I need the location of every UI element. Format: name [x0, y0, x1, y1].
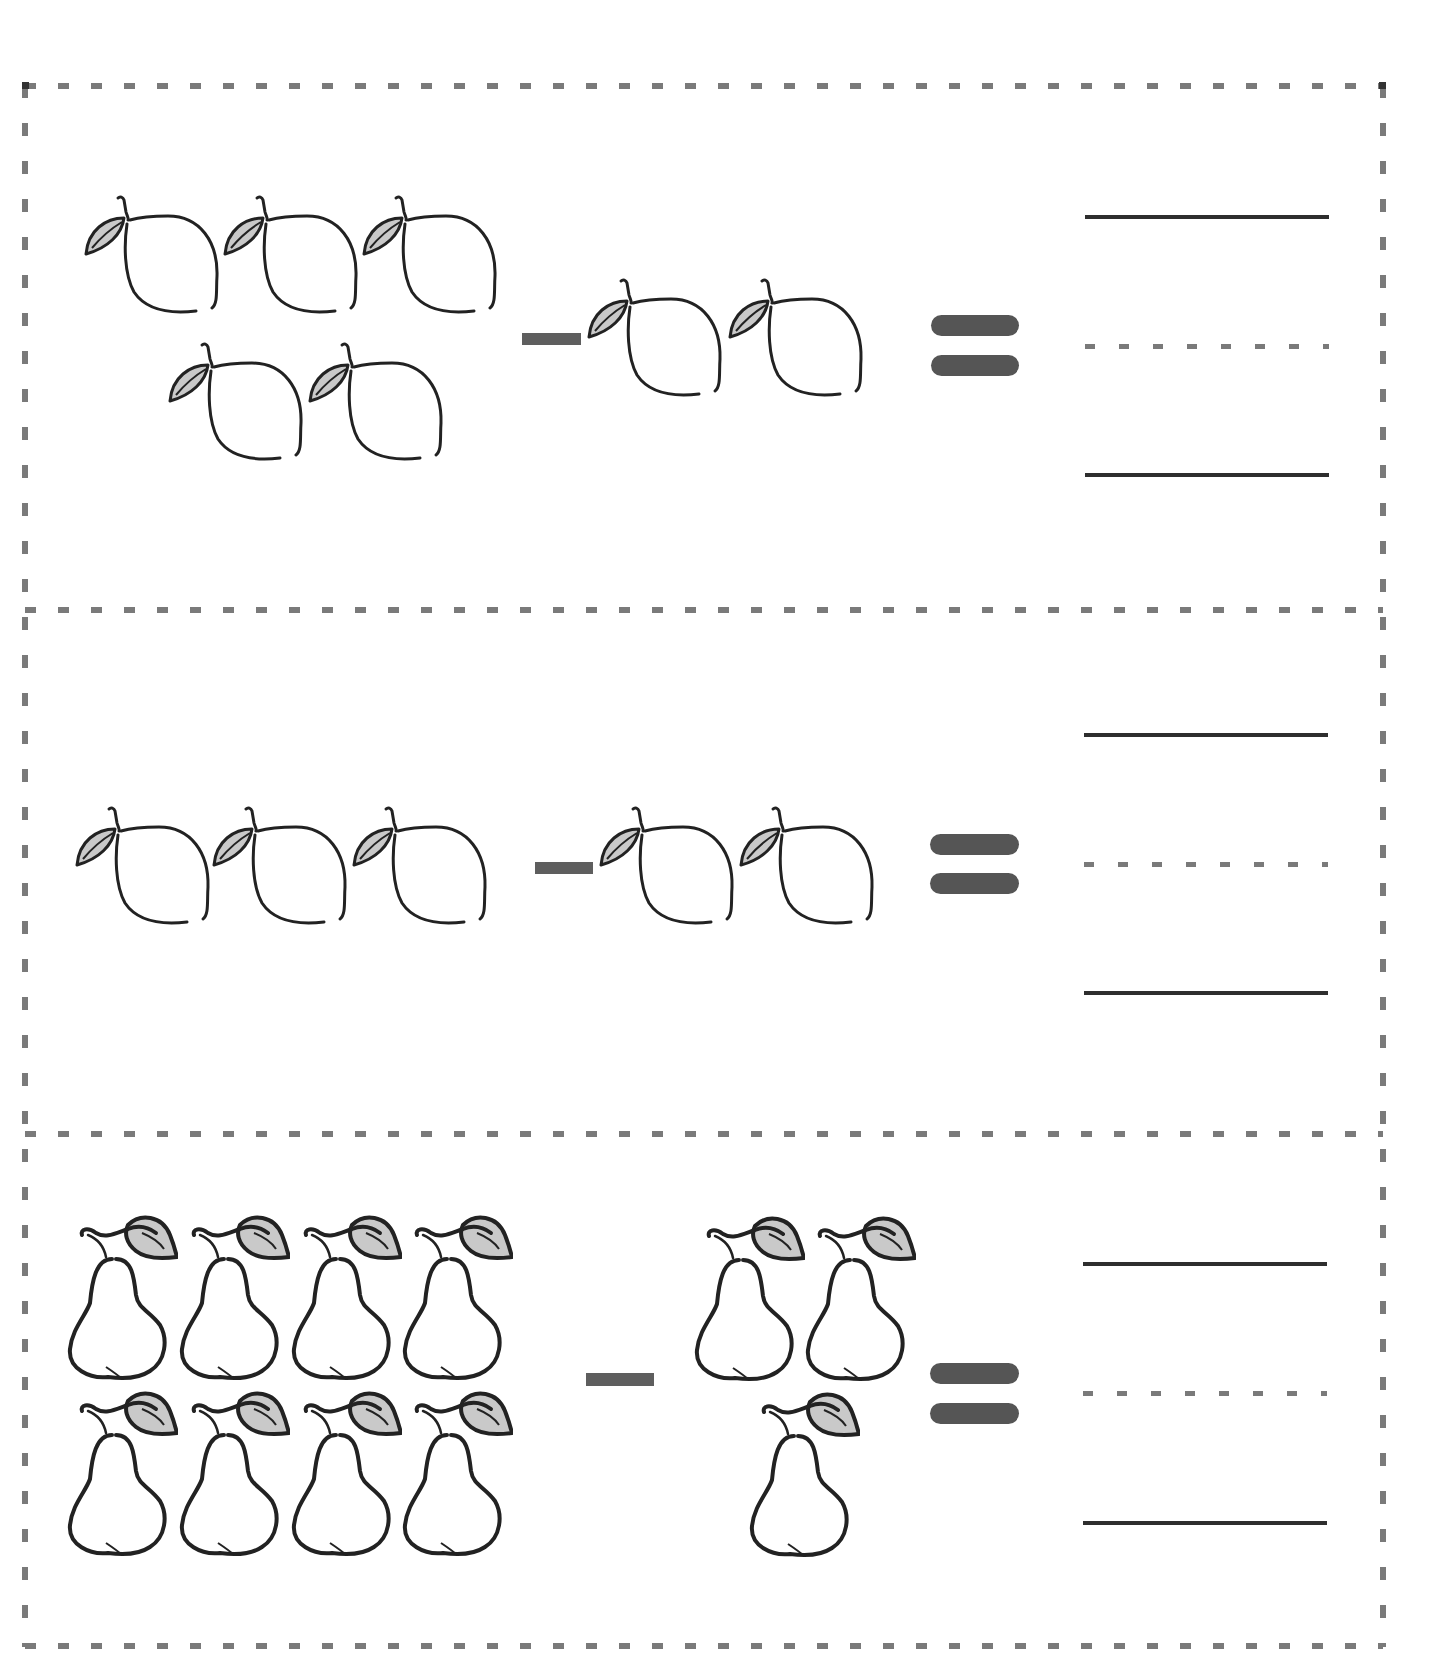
section-divider: [25, 1131, 1383, 1137]
minus-sign: [522, 333, 581, 345]
minus-sign: [586, 1373, 654, 1386]
lemon-icon: [587, 277, 723, 399]
equals-bar: [930, 1403, 1019, 1424]
pear-icon: [178, 1387, 290, 1557]
equals-bar: [931, 355, 1019, 376]
border-corner: [22, 82, 29, 89]
answer-line-middle: [1083, 1391, 1327, 1396]
answer-line-bottom: [1084, 991, 1328, 995]
worksheet: [0, 0, 1430, 1674]
lemon-icon: [739, 805, 875, 927]
lemon-icon: [362, 194, 498, 316]
answer-line-bottom: [1083, 1521, 1327, 1525]
pear-icon: [401, 1387, 513, 1557]
answer-line-top: [1084, 733, 1328, 737]
lemon-icon: [75, 805, 211, 927]
border-bottom: [25, 1643, 1383, 1649]
lemon-icon: [212, 805, 348, 927]
answer-line-top: [1085, 215, 1329, 219]
section-divider: [25, 607, 1383, 613]
border-top: [25, 83, 1383, 89]
pear-icon: [401, 1211, 513, 1381]
pear-icon: [290, 1211, 402, 1381]
border-right: [1380, 85, 1386, 1647]
answer-line-top: [1083, 1262, 1327, 1266]
answer-line-bottom: [1085, 473, 1329, 477]
equals-bar: [931, 315, 1019, 336]
lemon-icon: [352, 805, 488, 927]
pear-icon: [178, 1211, 290, 1381]
lemon-icon: [168, 341, 304, 463]
equals-bar: [930, 1363, 1019, 1384]
pear-icon: [66, 1211, 178, 1381]
lemon-icon: [728, 277, 864, 399]
lemon-icon: [84, 194, 220, 316]
equals-bar: [930, 834, 1019, 855]
pear-icon: [748, 1388, 860, 1558]
minus-sign: [535, 862, 593, 874]
pear-icon: [66, 1387, 178, 1557]
lemon-icon: [599, 805, 735, 927]
answer-line-middle: [1084, 862, 1328, 867]
border-corner: [1379, 82, 1386, 89]
answer-line-middle: [1085, 344, 1329, 349]
lemon-icon: [223, 194, 359, 316]
pear-icon: [804, 1212, 916, 1382]
equals-bar: [930, 873, 1019, 894]
pear-icon: [290, 1387, 402, 1557]
pear-icon: [693, 1212, 805, 1382]
lemon-icon: [308, 341, 444, 463]
border-left: [22, 85, 28, 1647]
